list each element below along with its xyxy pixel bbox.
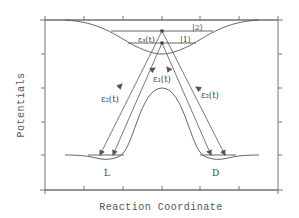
potential-energy-diagram: |2⟩ |1⟩ ε₃(t) ε₁(t) ε₂(t) ε₂(t) L D Reac… xyxy=(0,0,299,218)
level-1-label: |1⟩ xyxy=(180,35,191,44)
y-axis-ticks xyxy=(41,54,282,155)
plot-frame xyxy=(45,20,278,190)
eps3-label: ε₃(t) xyxy=(138,35,155,44)
upper-potential-curve xyxy=(65,20,259,54)
arrow-eps2-left xyxy=(100,31,162,155)
ground-double-well-curve xyxy=(65,88,259,159)
left-well-label: L xyxy=(104,168,110,178)
eps2-left-label: ε₂(t) xyxy=(101,94,119,104)
y-axis-label: Potentials xyxy=(16,72,27,137)
eps2-right-label: ε₂(t) xyxy=(201,90,219,100)
eps1-right-pointer xyxy=(167,67,170,71)
arrow-eps1-left xyxy=(113,43,162,155)
x-axis-label: Reaction Coordinate xyxy=(99,202,223,213)
level-2-label: |2⟩ xyxy=(192,23,203,32)
right-well-label: D xyxy=(212,168,219,178)
eps2-left-pointer xyxy=(118,84,122,88)
eps1-label: ε₁(t) xyxy=(153,74,171,84)
diagram-canvas: |2⟩ |1⟩ ε₃(t) ε₁(t) ε₂(t) ε₂(t) L D Reac… xyxy=(0,0,299,218)
